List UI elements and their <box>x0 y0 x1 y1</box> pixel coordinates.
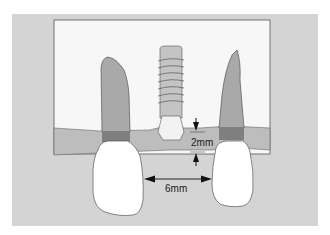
implant-body <box>160 46 182 118</box>
left-crown <box>93 141 143 216</box>
implant <box>158 46 184 140</box>
implant-diagram: 2mm 6mm <box>0 0 330 235</box>
left-cej-band <box>102 131 130 142</box>
implant-collar <box>158 116 184 140</box>
label-6mm: 6mm <box>165 183 187 194</box>
label-2mm: 2mm <box>191 137 213 148</box>
right-crown <box>212 141 253 207</box>
right-cej-band <box>219 127 244 140</box>
